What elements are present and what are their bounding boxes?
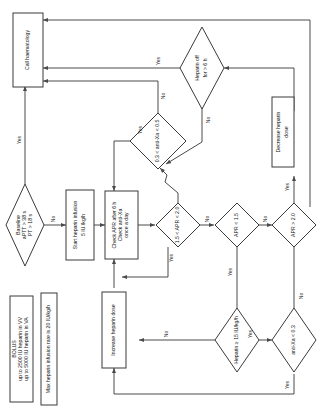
node-apr-range-line-0: 1.5 < APR < 2.0 <box>174 207 180 244</box>
node-heparin-off-line-1: for > 6 h <box>202 58 208 77</box>
node-heparin-off[interactable]: Heparin off for > 6 h <box>180 27 224 109</box>
node-decrease-dose-line-0: Decrease heparin <box>275 111 281 152</box>
node-check-apr[interactable]: Check APR after 6 h Check anti-Xa once a… <box>105 191 138 259</box>
node-apr-high-line-0: APR > 2.0 <box>290 213 296 237</box>
node-decrease-dose[interactable]: Decrease heparin dose <box>272 97 294 167</box>
node-start-infusion-line-0: Start heparin infusion <box>72 200 78 249</box>
label-hepoff-no: No <box>205 117 211 124</box>
flowchart-canvas: Call haematology Baseline aPTT > 38 s PT… <box>0 0 320 415</box>
node-apr-low[interactable]: APR < 1.5 <box>215 203 259 247</box>
node-heparin-rate[interactable]: Heparin ≥ 15 IU/kg/h <box>215 308 259 372</box>
label-baseline-no: No <box>50 216 56 223</box>
flowchart-svg: Call haematology Baseline aPTT > 38 s PT… <box>0 0 320 415</box>
label-apr-high-yes: Yes <box>284 182 290 191</box>
label-antixa-low-yes: Yes <box>284 380 290 389</box>
label-apr-range-no: No <box>204 216 210 223</box>
note-max-rate: Max heparin infusion rate is 20 IU/kg/h <box>41 293 57 405</box>
node-antixa-low[interactable]: anti-Xa < 0.3 <box>272 308 316 372</box>
node-baseline[interactable]: Baseline aPTT > 38 s PT > 18 s <box>6 184 44 266</box>
node-antixa-range-line-0: 0.3 < anti-Xa < 0.5 <box>154 120 160 163</box>
node-check-apr-line-2: once a day <box>123 212 129 238</box>
node-apr-low-line-0: APR < 1.5 <box>233 213 239 237</box>
label-heprate-no: No <box>163 331 169 338</box>
node-antixa-range[interactable]: 0.3 < anti-Xa < 0.5 <box>130 113 186 169</box>
node-apr-range[interactable]: 1.5 < APR < 2.0 <box>156 203 200 247</box>
label-apr-high-no: No <box>298 293 304 300</box>
edge-antixarange-no <box>43 81 158 113</box>
node-call-haematology[interactable]: Call haematology <box>13 13 43 87</box>
label-antixa-range-yes: Yes <box>137 125 143 134</box>
node-increase-dose-line-0: Increase heparin dose <box>110 304 116 355</box>
node-decrease-dose-line-1: dose <box>283 126 289 137</box>
node-antixa-low-line-0: anti-Xa < 0.3 <box>290 325 296 355</box>
label-antixa-range-no: No <box>160 93 166 100</box>
node-apr-high[interactable]: APR > 2.0 <box>272 203 316 247</box>
label-apr-range-yes: Yes <box>168 253 174 262</box>
label-hepoff-yes: Yes <box>155 56 161 65</box>
label-apr-low-no: No <box>262 216 268 223</box>
node-start-infusion[interactable]: Start heparin infusion 5 IU /kg/h <box>66 190 94 260</box>
node-increase-dose[interactable]: Increase heparin dose <box>102 292 126 368</box>
note-bolus: BOLUS up to 2500 IU heparin in VV up to … <box>10 296 33 402</box>
node-heparin-off-line-0: Heparin off <box>194 55 200 81</box>
note-bolus-line-2: up to 5000 IU heparin in VA <box>23 317 29 381</box>
node-start-infusion-line-1: 5 IU /kg/h <box>80 214 86 236</box>
node-call-haematology-line-0: Call haematology <box>24 30 30 70</box>
label-apr-low-yes: Yes <box>227 267 233 276</box>
edge-antixarange-yes <box>114 141 136 191</box>
edge-aprrange-yes <box>160 168 178 203</box>
label-heprate-yes: Yes <box>247 329 253 338</box>
note-max-rate-line-0: Max heparin infusion rate is 20 IU/kg/h <box>45 305 51 394</box>
label-baseline-yes: Yes <box>16 135 22 144</box>
node-baseline-line-2: PT > 18 s <box>27 213 33 236</box>
node-heparin-rate-line-0: Heparin ≥ 15 IU/kg/h <box>233 316 239 364</box>
edge-antixalow-yes <box>114 368 294 394</box>
edge-top-return-to-haem <box>43 20 310 207</box>
